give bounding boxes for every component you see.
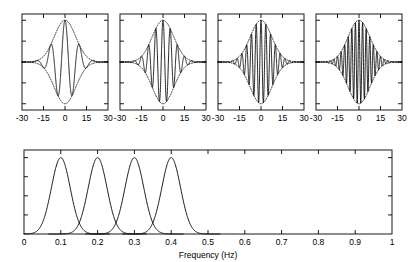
x-tick-label: 0.1 — [55, 237, 67, 247]
x-tick-label: 30 — [103, 113, 113, 123]
gaussian-envelope-upper — [22, 20, 108, 62]
x-tick-label: -30 — [16, 113, 29, 123]
figure-canvas: -30-1501530-30-1501530-30-1501530-30-150… — [0, 0, 417, 262]
gaussian-envelope-lower — [316, 62, 402, 104]
x-tick-label: 15 — [278, 113, 288, 123]
spectrum-peak-2 — [49, 158, 147, 234]
x-tick-label: 0.6 — [239, 237, 251, 247]
panel-frame — [24, 150, 392, 234]
x-tick-label: 0 — [63, 113, 68, 123]
x-tick-label: -30 — [212, 113, 225, 123]
wavelet-curve — [22, 20, 108, 95]
x-tick-label: 0.9 — [349, 237, 361, 247]
x-tick-label: -15 — [331, 113, 344, 123]
wavelet-curve — [316, 20, 402, 103]
wavelet-panel-4: -30-1501530 — [310, 14, 407, 123]
gaussian-envelope-lower — [120, 62, 206, 104]
wavelet-figure: -30-1501530-30-1501530-30-1501530-30-150… — [0, 0, 417, 262]
wavelet-panel-3: -30-1501530 — [212, 14, 309, 123]
gaussian-envelope-upper — [120, 20, 206, 62]
x-tick-label: 0 — [22, 237, 27, 247]
spectrum-peak-1 — [24, 158, 110, 234]
x-tick-label: -15 — [37, 113, 50, 123]
x-tick-label: -15 — [233, 113, 246, 123]
x-tick-label: 0.2 — [92, 237, 104, 247]
x-tick-label: 0 — [259, 113, 264, 123]
x-tick-label: 30 — [299, 113, 309, 123]
x-tick-label: 30 — [397, 113, 407, 123]
x-tick-label: -15 — [135, 113, 148, 123]
x-tick-label: 1 — [390, 237, 395, 247]
wavelet-panel-2: -30-1501530 — [114, 14, 211, 123]
spectrum-panel: 00.10.20.30.40.50.60.70.80.91Frequency (… — [22, 150, 395, 260]
spectrum-peak-4 — [122, 158, 220, 234]
x-axis-label: Frequency (Hz) — [179, 250, 238, 260]
x-tick-label: 0 — [161, 113, 166, 123]
x-tick-label: -30 — [114, 113, 127, 123]
x-tick-label: 0.8 — [312, 237, 324, 247]
x-tick-label: 0.5 — [202, 237, 214, 247]
x-tick-label: 0.4 — [165, 237, 177, 247]
x-tick-label: -30 — [310, 113, 323, 123]
wavelet-panel-1: -30-1501530 — [16, 14, 113, 123]
panel-frame — [22, 14, 108, 110]
x-tick-label: 0 — [357, 113, 362, 123]
x-tick-label: 15 — [180, 113, 190, 123]
spectrum-peak-3 — [86, 158, 184, 234]
gaussian-envelope-lower — [218, 62, 304, 104]
x-tick-label: 30 — [201, 113, 211, 123]
x-tick-label: 15 — [82, 113, 92, 123]
gaussian-envelope-lower — [22, 62, 108, 104]
x-tick-label: 15 — [376, 113, 386, 123]
x-tick-label: 0.7 — [276, 237, 288, 247]
x-tick-label: 0.3 — [128, 237, 140, 247]
